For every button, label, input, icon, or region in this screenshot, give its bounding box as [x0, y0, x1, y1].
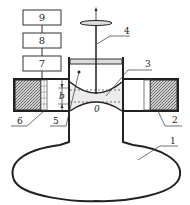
box-9-label: 9: [39, 12, 45, 23]
rod-arrow-head: [95, 7, 98, 11]
callout-2-label: 2: [172, 115, 178, 125]
left-magnet-core: [15, 80, 41, 110]
callout-6-label: 6: [17, 116, 23, 126]
callout-5-label: 5: [53, 116, 59, 126]
callout-6: 6: [11, 111, 44, 126]
rod-disc: [80, 21, 112, 26]
right-magnet-core: [150, 80, 177, 110]
right-magnet-assembly: [123, 79, 178, 111]
right-coil: [144, 80, 150, 110]
callout-4: 4: [97, 26, 130, 44]
diagram-canvas: 9 8 7 b: [0, 0, 190, 205]
callout-2: 2: [158, 111, 182, 126]
origin-label: 0: [94, 104, 100, 114]
box-7: 7: [23, 56, 61, 71]
callout-3-label: 3: [145, 59, 151, 69]
bowl-outline: [13, 145, 181, 201]
gap-label: b: [59, 91, 65, 101]
box-9: 9: [23, 10, 61, 25]
callout-1-label: 1: [170, 136, 176, 146]
box-8: 8: [23, 33, 61, 48]
callout-1: 1: [138, 136, 178, 160]
box-8-label: 8: [39, 35, 45, 46]
box-7-label: 7: [39, 58, 45, 69]
callout-4-label: 4: [124, 26, 130, 36]
